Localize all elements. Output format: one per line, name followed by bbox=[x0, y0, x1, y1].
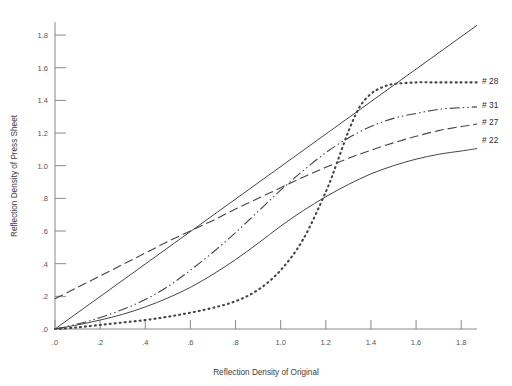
y-tick-label: 1.2 bbox=[38, 129, 48, 138]
legend-label-n28: # 28 bbox=[482, 76, 499, 86]
y-tick-label: 1.8 bbox=[38, 31, 48, 40]
x-axis-ticks bbox=[55, 320, 461, 329]
x-tick-label: 1.4 bbox=[366, 338, 376, 347]
chart-root: .0.2.4.6.81.01.21.41.61.8 .0.2.4.6.81.01… bbox=[0, 0, 512, 386]
x-tick-label: .0 bbox=[52, 338, 58, 347]
x-tick-label: .4 bbox=[142, 338, 148, 347]
series-line-n31 bbox=[55, 107, 477, 329]
legend-label-n31: # 31 bbox=[482, 100, 499, 110]
reflection-density-chart: .0.2.4.6.81.01.21.41.61.8 .0.2.4.6.81.01… bbox=[0, 0, 512, 386]
x-tick-label: 1.0 bbox=[275, 338, 285, 347]
y-tick-label: 1.6 bbox=[38, 64, 48, 73]
y-tick-label: .8 bbox=[42, 194, 48, 203]
y-tick-label: 1.4 bbox=[38, 96, 48, 105]
y-tick-label: .6 bbox=[42, 227, 48, 236]
y-axis-title: Reflection Density of Press Sheet bbox=[10, 114, 19, 237]
x-tick-label: 1.6 bbox=[411, 338, 421, 347]
y-tick-label: .0 bbox=[42, 325, 48, 334]
y-tick-label: 1.0 bbox=[38, 162, 48, 171]
y-axis-ticks bbox=[55, 35, 66, 329]
x-tick-label: 1.8 bbox=[456, 338, 466, 347]
legend-label-n22: # 22 bbox=[482, 135, 499, 145]
x-axis-title: Reflection Density of Original bbox=[213, 368, 319, 377]
y-tick-label: .2 bbox=[42, 292, 48, 301]
x-tick-label: .8 bbox=[232, 338, 238, 347]
series-line-n27 bbox=[55, 124, 477, 299]
legend-group: # 28# 31# 27# 22 bbox=[482, 76, 499, 146]
data-series-group bbox=[55, 25, 477, 329]
x-axis-tick-labels: .0.2.4.6.81.01.21.41.61.8 bbox=[52, 338, 467, 347]
series-line-n22 bbox=[55, 149, 477, 329]
series-line-reference-line bbox=[55, 25, 477, 329]
x-tick-label: 1.2 bbox=[321, 338, 331, 347]
legend-label-n27: # 27 bbox=[482, 117, 499, 127]
series-line-n28 bbox=[55, 82, 477, 329]
y-axis-tick-labels: .0.2.4.6.81.01.21.41.61.8 bbox=[38, 31, 48, 334]
x-tick-label: .2 bbox=[97, 338, 103, 347]
x-tick-label: .6 bbox=[187, 338, 193, 347]
y-tick-label: .4 bbox=[42, 260, 48, 269]
